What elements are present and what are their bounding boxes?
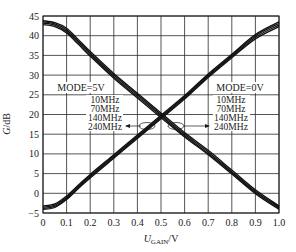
freq-label: 240MHz	[214, 122, 248, 132]
y-tick-label: 25	[29, 89, 39, 100]
y-tick-label: −5	[28, 208, 39, 219]
mode-5v-label: MODE=5V	[57, 82, 105, 93]
freq-label: 240MHz	[88, 122, 122, 132]
x-tick-label: 0.1	[60, 217, 73, 228]
gain-vs-voltage-chart: 454035302520151050−5 00.10.20.30.40.50.6…	[0, 0, 296, 252]
y-tick-label: 5	[34, 168, 39, 179]
x-tick-label: 0.2	[84, 217, 97, 228]
annotation-mode-5v: MODE=5V 10MHz 70MHz 140MHz 240MHz	[56, 82, 155, 132]
x-axis-label: UGAIN/V	[144, 233, 180, 246]
y-tick-label: 30	[29, 70, 39, 81]
x-tick-label: 0.6	[178, 217, 191, 228]
x-tick-label: 0.7	[202, 217, 215, 228]
y-tick-label: 10	[29, 148, 39, 159]
x-tick-labels: 00.10.20.30.40.50.60.70.80.91.0	[41, 217, 286, 228]
annotation-mode-0v: MODE=0V 10MHz 70MHz 140MHz 240MHz	[168, 82, 266, 132]
mode-0v-label: MODE=0V	[216, 82, 264, 93]
x-tick-label: 0	[41, 217, 46, 228]
x-tick-label: 0.4	[131, 217, 144, 228]
y-axis-label: G/dB	[1, 113, 12, 135]
x-tick-label: 0.8	[226, 217, 239, 228]
y-tick-label: 15	[29, 129, 39, 140]
y-tick-labels: 454035302520151050−5	[28, 11, 39, 219]
x-tick-label: 0.3	[108, 217, 121, 228]
x-tick-label: 1.0	[273, 217, 286, 228]
arrowhead-left-icon	[125, 124, 130, 128]
arrowhead-right-icon	[205, 124, 210, 128]
x-tick-label: 0.5	[155, 217, 168, 228]
y-tick-label: 20	[29, 109, 39, 120]
y-tick-label: 0	[34, 188, 39, 199]
y-tick-label: 40	[29, 30, 39, 41]
y-tick-label: 35	[29, 50, 39, 61]
y-tick-label: 45	[29, 11, 39, 22]
x-tick-label: 0.9	[249, 217, 262, 228]
